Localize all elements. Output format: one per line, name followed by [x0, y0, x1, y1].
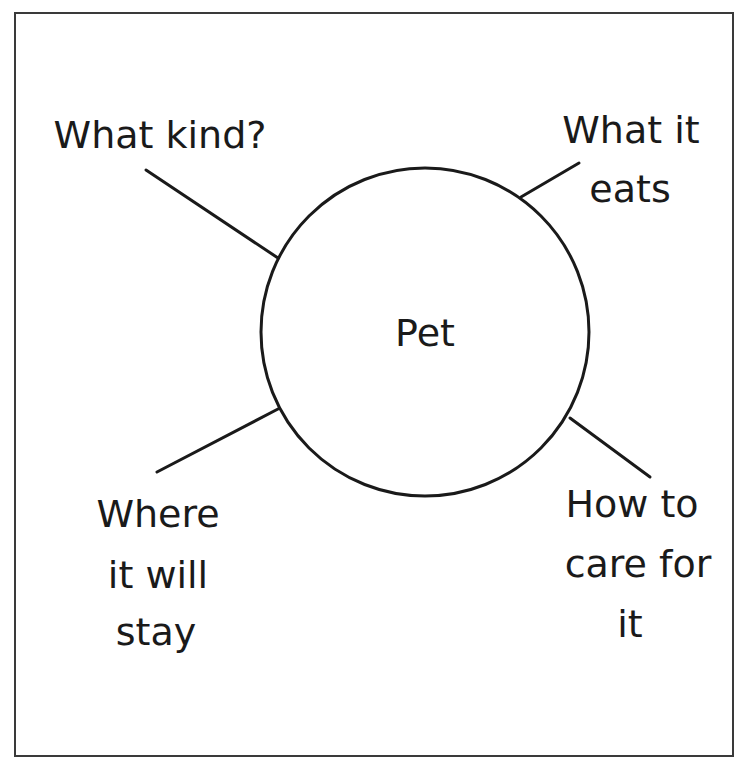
branch-label-line: What it	[562, 108, 699, 152]
branch-label-line: it will	[108, 553, 208, 597]
center-label: Pet	[395, 311, 455, 355]
branch-label-line: eats	[589, 167, 670, 211]
branch-label-line: it	[617, 602, 642, 646]
branch-label-line: stay	[116, 610, 196, 654]
branch-label-line: care for	[565, 542, 712, 586]
branch-label-line: What kind?	[54, 113, 267, 157]
branch-what-kind: What kind?	[54, 113, 267, 157]
branch-label-line: Where	[96, 492, 219, 536]
branch-label-line: How to	[565, 482, 698, 526]
concept-web-diagram: Pet What kind? What it eats Where it wil…	[0, 0, 743, 766]
